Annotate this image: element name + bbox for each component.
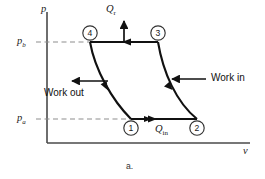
x-axis-label: v xyxy=(243,146,248,157)
state-point-3-label: 3 xyxy=(156,28,161,38)
y-axis-label: p xyxy=(41,4,46,15)
state-point-1: 1 xyxy=(124,121,139,136)
cycle-direction-arrows xyxy=(101,39,173,123)
state-point-2: 2 xyxy=(190,121,205,136)
state-point-3: 3 xyxy=(151,26,166,41)
tick-pb-sub: b xyxy=(22,41,26,49)
q-in-sub: in xyxy=(163,129,168,137)
diagram-canvas xyxy=(0,0,265,179)
state-point-2-label: 2 xyxy=(195,123,200,133)
heat-rejected-label: Qr xyxy=(106,4,116,17)
q-rejected-sub: r xyxy=(114,9,116,17)
state-point-1-label: 1 xyxy=(129,123,134,133)
state-point-4-label: 4 xyxy=(88,28,93,38)
heat-in-label: Qin xyxy=(155,124,168,137)
q-in-base: Q xyxy=(155,123,163,134)
direction-arrow-left xyxy=(101,81,109,91)
q-rejected-base: Q xyxy=(106,3,114,14)
state-point-4: 4 xyxy=(83,26,98,41)
work-in-label: Work in xyxy=(211,73,245,83)
tick-pa-sub: a xyxy=(22,118,26,126)
tick-label-pb: pb xyxy=(17,36,26,49)
pv-diagram-figure: p v pb pa Qr Qin Work out Work in 4 3 1 … xyxy=(0,0,265,179)
work-out-label: Work out xyxy=(44,88,84,98)
figure-caption: a. xyxy=(126,162,133,171)
process-2-to-3 xyxy=(158,42,197,119)
tick-label-pa: pa xyxy=(17,113,26,126)
